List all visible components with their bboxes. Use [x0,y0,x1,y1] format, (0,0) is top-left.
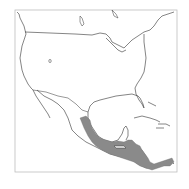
range-map [0,0,189,189]
